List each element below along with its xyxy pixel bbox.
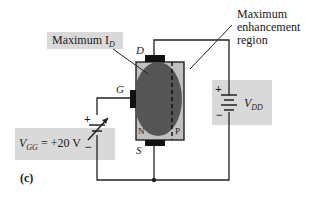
vdd-battery-icon [221,95,237,110]
channel-region [134,62,182,136]
enhancement-arrow [190,25,232,69]
junction-dot [152,178,156,182]
source-label: S [136,144,142,156]
vdd-label: VDD [244,96,263,112]
vgg-minus: − [85,140,92,155]
gate-label: G [116,83,124,95]
drain-label: D [136,44,144,56]
source-contact [145,140,165,146]
vgg-plus: + [84,112,91,127]
n-region-label: N [138,126,145,136]
enhancement-label: Maximum enhancement region [237,8,300,47]
figure-label: (c) [20,171,33,186]
max-id-label: Maximum ID [52,33,115,49]
vdd-minus: − [216,108,223,123]
gate-contact [130,90,136,108]
vgg-label: VGG = +20 V [19,136,81,152]
drain-contact [145,55,165,62]
vdd-plus: + [215,82,222,97]
p-region-label: P [175,126,180,136]
